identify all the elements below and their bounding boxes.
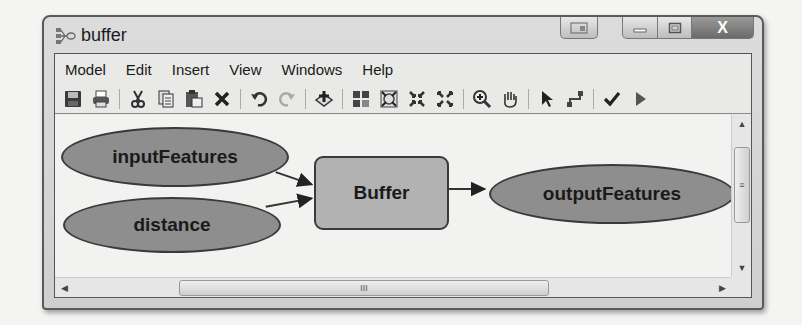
menu-edit[interactable]: Edit [126,61,152,78]
auto-layout-button[interactable] [349,87,373,111]
window-title: buffer [81,25,127,46]
node-buffer[interactable]: Buffer [314,156,449,230]
vertical-scrollbar[interactable]: ▲ ≡ ▼ [731,115,751,277]
menu-view[interactable]: View [229,61,261,78]
auto-layout-icon [351,89,371,109]
zoom-in-fixed-icon [407,89,427,109]
scroll-right-arrow-icon[interactable]: ▶ [713,278,731,298]
toolbar-separator [342,89,343,109]
window-client-area: Model Edit Insert View Windows Help [54,53,752,298]
toolbar-separator [305,89,306,109]
print-button[interactable] [89,87,113,111]
node-inputFeatures[interactable]: inputFeatures [61,127,289,187]
extra-icon [570,22,588,34]
zoom-in-fixed-button[interactable] [405,87,429,111]
node-label: inputFeatures [112,146,238,168]
close-button[interactable]: X [692,17,754,39]
close-icon: X [717,19,728,37]
undo-icon [249,89,269,109]
pan-button[interactable] [498,87,522,111]
scroll-up-arrow-icon[interactable]: ▲ [732,115,752,133]
toolbar-separator [528,89,529,109]
minimize-icon [633,23,647,33]
connect-icon [565,89,585,109]
caption-buttons: X [560,17,754,39]
add-data-button[interactable] [312,87,336,111]
menu-insert[interactable]: Insert [172,61,210,78]
toolbar [55,84,751,114]
cut-button[interactable] [126,87,150,111]
node-label: distance [133,214,210,236]
zoom-out-fixed-button[interactable] [433,87,457,111]
zoom-in-icon [472,89,492,109]
run-button[interactable] [628,87,652,111]
model-builder-icon [54,27,76,45]
extra-caption-button[interactable] [560,17,598,39]
title-bar[interactable]: buffer X [44,17,762,53]
delete-icon [212,89,232,109]
run-icon [630,89,650,109]
add-data-icon [314,89,334,109]
save-button[interactable] [61,87,85,111]
toolbar-separator [240,89,241,109]
paste-icon [184,89,204,109]
scroll-down-arrow-icon[interactable]: ▼ [732,259,752,277]
delete-button[interactable] [210,87,234,111]
vertical-scroll-thumb[interactable]: ≡ [734,147,750,223]
undo-button[interactable] [247,87,271,111]
edge-inputFeatures-buffer [276,172,312,184]
menu-model[interactable]: Model [65,61,106,78]
scroll-left-arrow-icon[interactable]: ◀ [55,278,73,298]
select-icon [537,89,557,109]
model-canvas[interactable]: inputFeatures distance Buffer outputFeat… [55,115,731,277]
node-outputFeatures[interactable]: outputFeatures [489,164,731,224]
redo-icon [277,89,297,109]
copy-icon [156,89,176,109]
toolbar-separator [463,89,464,109]
size-grip[interactable] [731,277,751,297]
grip-icon: III [360,283,368,293]
menu-windows[interactable]: Windows [281,61,342,78]
maximize-icon [668,22,682,34]
select-button[interactable] [535,87,559,111]
redo-button[interactable] [275,87,299,111]
toolbar-separator [593,89,594,109]
menu-bar: Model Edit Insert View Windows Help [55,54,751,84]
validate-button[interactable] [600,87,624,111]
cut-icon [128,89,148,109]
zoom-in-button[interactable] [470,87,494,111]
print-icon [91,89,111,109]
connect-button[interactable] [563,87,587,111]
full-extent-button[interactable] [377,87,401,111]
copy-button[interactable] [154,87,178,111]
node-label: outputFeatures [543,183,681,205]
model-window: buffer X [42,15,764,310]
validate-icon [602,89,622,109]
menu-help[interactable]: Help [362,61,393,78]
node-distance[interactable]: distance [63,197,281,253]
grip-icon: ≡ [739,180,744,190]
pan-icon [500,89,520,109]
horizontal-scrollbar[interactable]: ◀ III ▶ [55,277,731,297]
minimize-button[interactable] [622,17,658,39]
horizontal-scroll-thumb[interactable]: III [179,280,549,296]
full-extent-icon [379,89,399,109]
save-icon [63,89,83,109]
maximize-button[interactable] [658,17,692,39]
node-label: Buffer [354,182,410,204]
edge-distance-buffer [266,198,312,206]
toolbar-separator [119,89,120,109]
zoom-out-fixed-icon [435,89,455,109]
paste-button[interactable] [182,87,206,111]
